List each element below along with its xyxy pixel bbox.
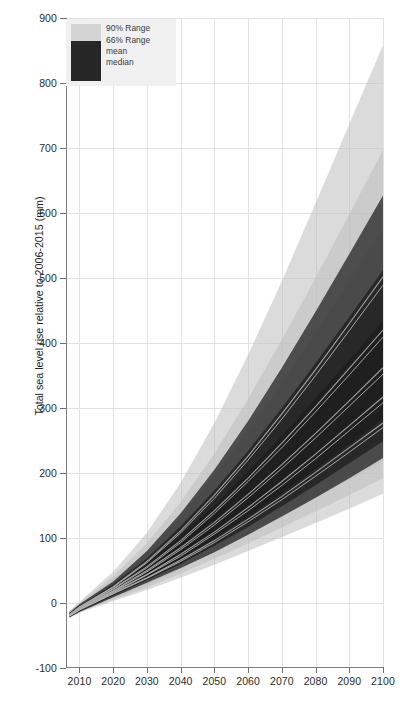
x-tick-label: 2010 xyxy=(68,675,92,687)
y-tick-label: 100 xyxy=(39,532,57,544)
y-tick-label: -100 xyxy=(36,662,57,674)
legend-swatch-90-range xyxy=(71,24,101,41)
x-tick-label: 2040 xyxy=(169,675,193,687)
x-tick-label: 2060 xyxy=(236,675,260,687)
sea-level-rise-chart: -100010020030040050060070080090020102020… xyxy=(0,0,401,707)
legend-label-mean: mean xyxy=(106,46,127,56)
chart-legend: 90% Range 66% Range mean median xyxy=(66,19,176,86)
x-tick-label: 2100 xyxy=(371,675,395,687)
legend-label-median: median xyxy=(106,57,134,67)
legend-label-90-range: 90% Range xyxy=(106,23,150,33)
x-tick-label: 2020 xyxy=(101,675,125,687)
data-bands xyxy=(66,18,383,668)
x-tick-label: 2090 xyxy=(337,675,361,687)
legend-swatch-66-range xyxy=(71,41,101,81)
y-tick-label: 900 xyxy=(39,12,57,24)
x-tick-label: 2070 xyxy=(270,675,294,687)
figure-caption xyxy=(2,694,399,706)
x-tick-label: 2080 xyxy=(304,675,328,687)
legend-label-66-range: 66% Range xyxy=(106,35,150,45)
y-tick-label: 800 xyxy=(39,77,57,89)
x-tick-label: 2030 xyxy=(135,675,159,687)
y-tick-label: 200 xyxy=(39,467,57,479)
x-tick-label: 2050 xyxy=(202,675,226,687)
y-axis-title: Total sea level rise relative to 2006-20… xyxy=(33,161,45,451)
y-tick-label: 0 xyxy=(51,597,57,609)
x-tick xyxy=(383,667,384,673)
gridline-vertical xyxy=(383,18,384,668)
y-tick xyxy=(60,668,66,669)
y-tick-label: 700 xyxy=(39,142,57,154)
